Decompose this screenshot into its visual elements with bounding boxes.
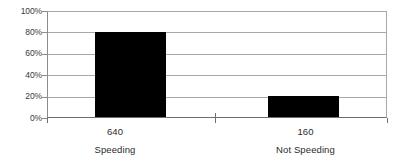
bar-chart: 100% 80% 60% 40% 20% 0% 640 Speeding 160… <box>0 0 408 162</box>
y-tick-label-80: 80% <box>4 28 42 37</box>
plot-area <box>47 11 387 118</box>
category-name-speeding: Speeding <box>60 145 170 155</box>
y-tick-label-20: 20% <box>4 92 42 101</box>
y-tick-label-0: 0% <box>4 114 42 123</box>
y-tick-label-100: 100% <box>4 7 42 16</box>
bar-not-speeding <box>268 96 339 117</box>
y-axis: 100% 80% 60% 40% 20% 0% <box>0 0 42 162</box>
bar-speeding <box>95 32 166 117</box>
category-tick-mid <box>215 113 216 123</box>
y-tick-label-60: 60% <box>4 49 42 58</box>
category-count-not-speeding: 160 <box>238 127 373 137</box>
category-label-not-speeding: 160 Not Speeding <box>238 127 373 154</box>
category-name-not-speeding: Not Speeding <box>238 145 373 155</box>
category-count-speeding: 640 <box>60 127 170 137</box>
y-tick-label-40: 40% <box>4 71 42 80</box>
category-label-speeding: 640 Speeding <box>60 127 170 154</box>
category-tick-right <box>387 118 388 123</box>
category-tick-left <box>47 118 48 123</box>
